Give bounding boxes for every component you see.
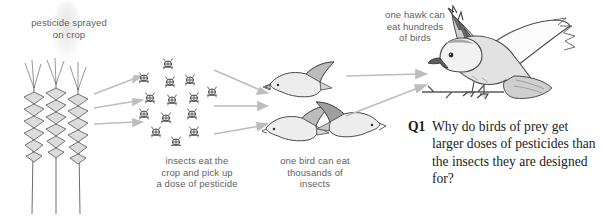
label-one-hawk-eats-birds: one hawk can eat hundreds of birds bbox=[352, 9, 478, 44]
bird-icon bbox=[262, 106, 330, 141]
diagram-canvas: pesticide sprayed on crop insects eat th… bbox=[0, 0, 601, 216]
question-number: Q1 bbox=[408, 118, 425, 135]
label-insects-eat-crop: insects eat the crop and pick up a dose … bbox=[124, 155, 270, 190]
label-one-bird-eats-insects: one bird can eat thousands of insects bbox=[252, 155, 378, 190]
bird-icon bbox=[263, 62, 334, 97]
question-block: Q1 Why do birds of prey get larger doses… bbox=[408, 118, 598, 188]
label-pesticide-sprayed: pesticide sprayed on crop bbox=[8, 17, 130, 40]
question-text: Why do birds of prey get larger doses of… bbox=[432, 118, 598, 188]
